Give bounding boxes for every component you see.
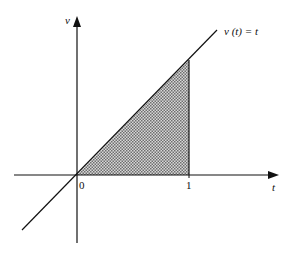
tick-label-0: 0 bbox=[79, 179, 85, 191]
v-axis-label: v bbox=[65, 14, 70, 26]
function-label: v (t) = t bbox=[224, 25, 259, 38]
t-axis-label: t bbox=[272, 181, 276, 193]
t-axis-arrow-icon bbox=[268, 171, 279, 179]
v-axis-arrow-icon bbox=[73, 16, 81, 27]
velocity-time-diagram: v t 0 1 v (t) = t bbox=[0, 0, 292, 253]
tick-label-1: 1 bbox=[186, 179, 192, 191]
shaded-area bbox=[77, 60, 189, 175]
